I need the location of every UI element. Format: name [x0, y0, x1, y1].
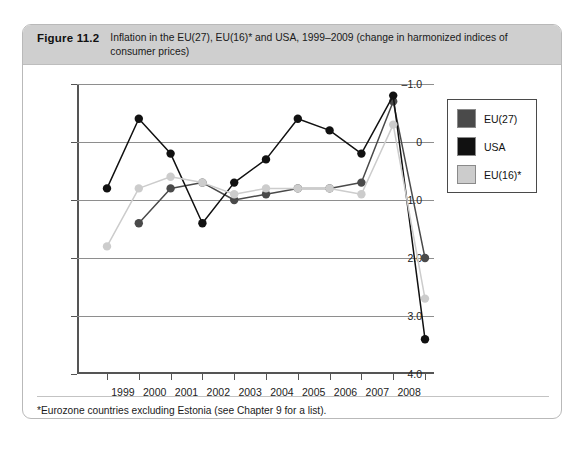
- legend-swatch-icon: [457, 137, 476, 156]
- x-tick-mark: [361, 374, 362, 380]
- data-point: [389, 91, 397, 99]
- x-tick-mark: [234, 374, 235, 380]
- data-point: [325, 184, 333, 192]
- legend-item[interactable]: USA: [457, 137, 528, 156]
- chart-area: 4.03.02.01.00–1.0 1999200020012002200320…: [23, 66, 561, 418]
- x-tick-mark: [393, 374, 394, 380]
- data-point: [135, 219, 143, 227]
- data-point: [230, 178, 238, 186]
- x-tick-mark: [266, 374, 267, 380]
- data-point: [357, 149, 365, 157]
- data-point: [294, 184, 302, 192]
- data-point: [198, 219, 206, 227]
- legend-label: EU(27): [484, 113, 517, 125]
- data-point: [198, 178, 206, 186]
- data-series-layer: [77, 84, 434, 374]
- data-point: [166, 149, 174, 157]
- x-tick-mark: [139, 374, 140, 380]
- x-tick-mark: [425, 374, 426, 380]
- footnote-divider: [37, 396, 549, 397]
- legend-swatch-icon: [457, 165, 476, 184]
- data-point: [135, 184, 143, 192]
- x-tick-mark: [298, 374, 299, 380]
- x-tick-mark: [107, 374, 108, 380]
- data-point: [135, 115, 143, 123]
- legend-item[interactable]: EU(16)*: [457, 165, 528, 184]
- data-point: [325, 126, 333, 134]
- x-tick-mark: [171, 374, 172, 380]
- data-point: [389, 120, 397, 128]
- data-point: [103, 184, 111, 192]
- data-point: [421, 335, 429, 343]
- data-point: [357, 178, 365, 186]
- data-point: [421, 294, 429, 302]
- figure-footnote: *Eurozone countries excluding Estonia (s…: [37, 405, 549, 416]
- data-point: [262, 184, 270, 192]
- figure-header: Figure 11.2Inflation in the EU(27), EU(1…: [23, 25, 561, 65]
- x-tick-mark: [330, 374, 331, 380]
- data-point: [421, 254, 429, 262]
- figure-caption: Inflation in the EU(27), EU(16)* and USA…: [110, 31, 528, 58]
- data-point: [103, 242, 111, 250]
- data-point: [166, 184, 174, 192]
- series-line-eu-16: [107, 125, 425, 299]
- series-line-usa: [107, 96, 425, 340]
- data-point: [357, 190, 365, 198]
- chart-legend: EU(27)USAEU(16)*: [447, 99, 537, 193]
- data-point: [294, 115, 302, 123]
- legend-label: USA: [484, 141, 506, 153]
- figure-number-label: Figure 11.2: [37, 31, 99, 44]
- data-point: [262, 155, 270, 163]
- legend-swatch-icon: [457, 109, 476, 128]
- data-point: [230, 190, 238, 198]
- y-tick-mark: [71, 374, 77, 375]
- plot-region: 4.03.02.01.00–1.0 1999200020012002200320…: [77, 84, 434, 374]
- x-tick-mark: [202, 374, 203, 380]
- data-point: [166, 173, 174, 181]
- legend-label: EU(16)*: [484, 169, 521, 181]
- figure-card: Figure 11.2Inflation in the EU(27), EU(1…: [22, 24, 562, 419]
- legend-item[interactable]: EU(27): [457, 109, 528, 128]
